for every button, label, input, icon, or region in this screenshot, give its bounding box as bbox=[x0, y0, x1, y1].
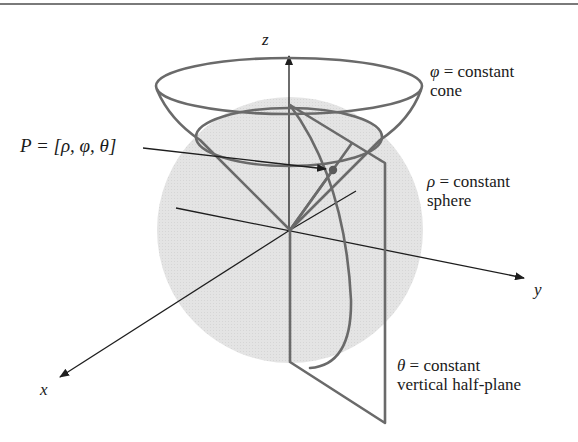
cone-equation: = constant bbox=[444, 62, 515, 81]
theta-symbol: θ bbox=[397, 356, 405, 375]
half-plane-label: θ = constant vertical half-plane bbox=[397, 356, 521, 394]
sphere-label: ρ = constant sphere bbox=[427, 172, 510, 210]
x-axis-label: x bbox=[40, 380, 48, 399]
half-plane-equation: = constant bbox=[410, 356, 481, 375]
rho-symbol: ρ bbox=[427, 172, 435, 191]
y-axis-label: y bbox=[534, 280, 542, 299]
point-p-text: P = [ρ, φ, θ] bbox=[20, 135, 116, 156]
sphere-equation: = constant bbox=[439, 172, 510, 191]
cone-label: φ = constant cone bbox=[430, 62, 514, 100]
point-p-label: P = [ρ, φ, θ] bbox=[20, 136, 116, 155]
cone-name: cone bbox=[430, 81, 514, 100]
point-p bbox=[329, 166, 337, 174]
z-axis-label: z bbox=[262, 30, 269, 49]
sphere-name: sphere bbox=[427, 191, 510, 210]
phi-symbol: φ bbox=[430, 62, 439, 81]
half-plane-name: vertical half-plane bbox=[397, 375, 521, 394]
